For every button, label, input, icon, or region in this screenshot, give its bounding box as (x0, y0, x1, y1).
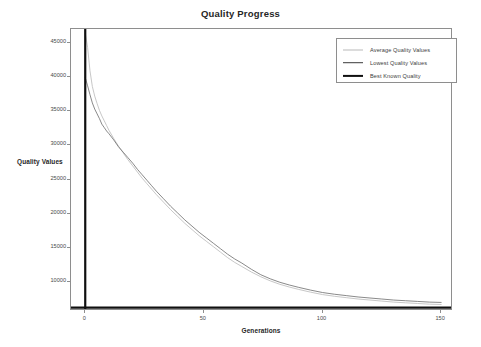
legend-label-average: Average Quality Values (370, 47, 430, 53)
chart-legend: Average Quality Values Lowest Quality Va… (336, 38, 457, 83)
legend-label-lowest: Lowest Quality Values (370, 60, 427, 66)
x-tick-label: 100 (307, 315, 337, 321)
x-tick-mark (322, 310, 323, 313)
legend-line-average-icon (343, 46, 363, 53)
x-tick-label: 0 (69, 315, 99, 321)
x-axis-label: Generations (70, 327, 452, 334)
legend-item-best-known: Best Known Quality (337, 69, 456, 82)
x-tick-mark (203, 310, 204, 313)
x-tick-label: 150 (425, 315, 455, 321)
legend-line-best-known-icon (343, 72, 363, 79)
x-tick-mark (84, 310, 85, 313)
legend-label-best-known: Best Known Quality (370, 73, 421, 79)
legend-line-lowest-icon (343, 59, 363, 66)
x-tick-mark (440, 310, 441, 313)
x-tick-label: 50 (188, 315, 218, 321)
chart-figure: Quality Progress Quality Values 10000150… (0, 0, 481, 347)
legend-item-average: Average Quality Values (337, 43, 456, 56)
series-line-lowest-quality-values (85, 78, 441, 303)
legend-item-lowest: Lowest Quality Values (337, 56, 456, 69)
